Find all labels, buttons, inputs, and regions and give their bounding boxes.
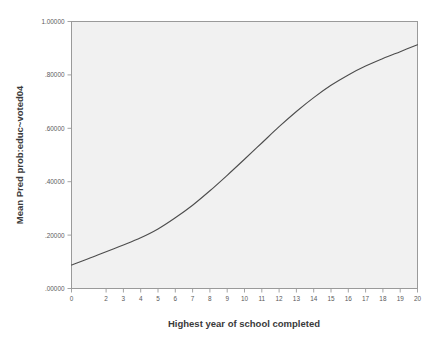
x-axis-tick-label: 11	[258, 295, 265, 302]
x-axis-tick-label: 13	[293, 295, 301, 302]
x-axis-tick-label: 3	[122, 295, 126, 302]
x-axis-tick-label: 7	[191, 295, 195, 302]
x-axis-tick-label: 8	[208, 295, 212, 302]
chart-container: 1.00000.80000.60000.40000.20000.00000 02…	[0, 0, 442, 346]
x-axis-tick-label: 0	[70, 295, 74, 302]
y-axis-tick-label: .80000	[45, 71, 65, 78]
plot-area-background	[72, 22, 418, 289]
y-axis-tick-label: .00000	[45, 285, 65, 292]
x-axis-tick-label: 12	[276, 295, 284, 302]
y-axis-tick-label: .20000	[45, 232, 65, 239]
x-axis-tick-label: 19	[397, 295, 405, 302]
x-axis-tick-label: 20	[414, 295, 422, 302]
y-axis-tick-label: .40000	[45, 178, 65, 185]
x-axis-tick-label: 6	[174, 295, 178, 302]
x-axis-tick-label: 18	[379, 295, 387, 302]
x-axis-tick-label: 17	[362, 295, 370, 302]
x-axis-tick-label: 5	[156, 295, 160, 302]
y-axis-tick-label: .60000	[45, 125, 65, 132]
x-axis-tick-label: 9	[225, 295, 229, 302]
x-axis-tick-label: 4	[139, 295, 143, 302]
line-chart: 1.00000.80000.60000.40000.20000.00000 02…	[0, 0, 442, 346]
x-axis-tick-label: 14	[310, 295, 318, 302]
x-axis-tick-label: 2	[104, 295, 108, 302]
x-axis-tick-label: 15	[327, 295, 335, 302]
y-axis-title: Mean Pred prob:educ~voted04	[14, 85, 25, 224]
x-axis-tick-label: 10	[241, 295, 249, 302]
x-axis-title: Highest year of school completed	[168, 318, 320, 329]
y-axis-tick-label: 1.00000	[41, 18, 65, 25]
x-axis-tick-label: 16	[345, 295, 353, 302]
